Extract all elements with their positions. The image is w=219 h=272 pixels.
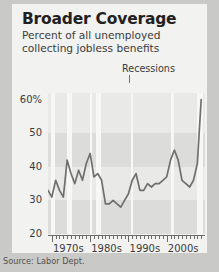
x-axis-tick bbox=[155, 235, 156, 239]
y-axis-tick-label: 40 bbox=[12, 161, 42, 172]
x-axis-tick bbox=[67, 235, 68, 239]
x-axis-tick bbox=[144, 235, 145, 239]
page-title: Broader Coverage bbox=[22, 10, 176, 28]
x-axis-tick bbox=[163, 235, 164, 239]
x-axis-tick-label: 1980s bbox=[87, 243, 127, 254]
x-axis-tick bbox=[167, 235, 168, 242]
series-line-svg bbox=[48, 93, 205, 234]
chart-card: Broader Coverage Percent of all unemploy… bbox=[12, 4, 207, 253]
y-axis-tick-label: 60% bbox=[12, 94, 42, 105]
x-axis-tick bbox=[194, 235, 195, 239]
x-axis-tick bbox=[197, 235, 198, 239]
x-axis-tick bbox=[52, 235, 53, 242]
x-axis-tick bbox=[71, 235, 72, 239]
x-axis-tick bbox=[121, 235, 122, 239]
x-axis-tick-label: 2000s bbox=[163, 243, 203, 254]
x-axis-tick-label: 1970s bbox=[48, 243, 88, 254]
x-axis-tick bbox=[94, 235, 95, 239]
x-axis-tick bbox=[105, 235, 106, 239]
series-line bbox=[48, 100, 201, 207]
y-axis-tick-label: 50 bbox=[12, 127, 42, 138]
x-axis-tick bbox=[75, 235, 76, 239]
x-axis-tick bbox=[174, 235, 175, 239]
x-axis-tick bbox=[140, 235, 141, 239]
x-axis-tick bbox=[151, 235, 152, 239]
x-axis-tick bbox=[79, 235, 80, 239]
recessions-annotation-pointer bbox=[129, 75, 130, 83]
x-axis-tick bbox=[159, 235, 160, 239]
x-axis-tick bbox=[59, 235, 60, 239]
x-axis-tick bbox=[171, 235, 172, 239]
x-axis-tick bbox=[125, 235, 126, 239]
recessions-annotation-label: Recessions bbox=[122, 63, 175, 74]
x-axis-tick bbox=[128, 235, 129, 242]
x-axis-tick bbox=[86, 235, 87, 239]
x-axis-tick bbox=[113, 235, 114, 239]
x-axis-tick bbox=[190, 235, 191, 239]
x-axis-tick bbox=[117, 235, 118, 239]
chart-subtitle: Percent of all unemployed collecting job… bbox=[22, 29, 202, 54]
x-axis-tick bbox=[98, 235, 99, 239]
x-axis-tick bbox=[90, 235, 91, 242]
x-axis-tick bbox=[178, 235, 179, 239]
x-axis-tick bbox=[136, 235, 137, 239]
y-axis-tick-label: 20 bbox=[12, 228, 42, 239]
chart-plot-area bbox=[48, 93, 205, 234]
x-axis-ticks bbox=[48, 235, 205, 242]
x-axis-tick bbox=[102, 235, 103, 239]
x-axis-tick-label: 1990s bbox=[125, 243, 165, 254]
x-axis-tick bbox=[182, 235, 183, 239]
x-axis-tick bbox=[201, 235, 202, 239]
x-axis-tick bbox=[186, 235, 187, 239]
chart-card-root: Broader Coverage Percent of all unemploy… bbox=[0, 0, 219, 272]
source-note: Source: Labor Dept. bbox=[3, 256, 85, 266]
x-axis-tick bbox=[56, 235, 57, 239]
x-axis-tick bbox=[109, 235, 110, 239]
y-axis-tick-label: 30 bbox=[12, 194, 42, 205]
x-axis-tick bbox=[132, 235, 133, 239]
x-axis-tick bbox=[63, 235, 64, 239]
x-axis-tick bbox=[148, 235, 149, 239]
x-axis-tick bbox=[82, 235, 83, 239]
